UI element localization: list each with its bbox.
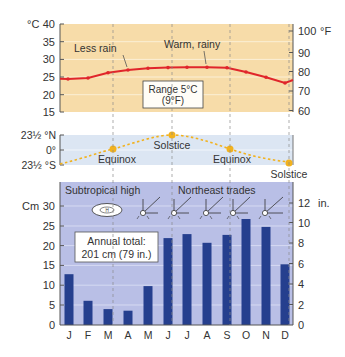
precipitation-panel: Cm 30 25 20 15 10 5 0 12 in. 10 8 6 4 2 … <box>22 182 330 341</box>
bar-feb <box>84 301 93 325</box>
tick-label: 0 <box>49 319 55 331</box>
bar-oct <box>242 219 251 325</box>
tick-label: 10 <box>298 217 310 229</box>
annual-total-line-2: 201 cm (79 in.) <box>81 248 151 260</box>
bar-nov <box>262 227 271 325</box>
month-label: D <box>281 329 289 341</box>
month-label: J <box>184 329 189 341</box>
tick-label: 15 <box>43 106 55 118</box>
northeast-trades-label: Northeast trades <box>178 184 256 196</box>
fahrenheit-tick-labels: 100 °F 90 80 70 60 <box>298 25 331 117</box>
warm-rainy-label: Warm, rainy <box>164 38 221 50</box>
subtropical-high-label: Subtropical high <box>65 184 140 196</box>
tick-label: 35 <box>43 36 55 48</box>
month-label: A <box>203 329 210 341</box>
tick-label: 25 <box>43 220 55 232</box>
celsius-unit-label: °C <box>27 18 39 30</box>
cm-unit-label: Cm <box>22 200 39 212</box>
tick-label: 23½ °N <box>21 129 56 141</box>
inch-unit-label: in. <box>318 197 330 209</box>
month-label: N <box>262 329 270 341</box>
bar-jul <box>183 234 192 325</box>
range-box: Range 5°C (9°F) <box>143 81 203 108</box>
cm-tick-labels: 30 25 20 15 10 5 0 <box>43 200 55 331</box>
annual-total-line-1: Annual total: <box>87 235 145 247</box>
tick-label: 20 <box>43 89 55 101</box>
equinox-label: Equinox <box>98 153 137 165</box>
tick-label: 12 <box>298 197 310 209</box>
bar-may <box>144 286 153 325</box>
tick-label: 30 <box>43 200 55 212</box>
tick-label: 70 <box>298 85 310 97</box>
tick-label: 5 <box>49 299 55 311</box>
inch-tick-labels: 12 in. 10 8 6 4 2 0 <box>298 197 330 331</box>
tick-label: 100 <box>298 25 316 37</box>
tick-label: 20 <box>43 240 55 252</box>
latitude-tick-labels: 23½ °N 0° 23½ °S <box>21 129 56 171</box>
tick-label: 8 <box>298 237 304 249</box>
tick-label: 0° <box>46 144 56 156</box>
bar-apr <box>124 311 133 325</box>
bar-aug <box>203 243 212 325</box>
pressure-letter: H <box>105 208 108 213</box>
month-label: M <box>144 329 153 341</box>
tick-label: 30 <box>43 53 55 65</box>
tick-label: 40 <box>43 18 55 30</box>
annual-total-box: Annual total: 201 cm (79 in.) <box>75 232 158 262</box>
tick-label: 2 <box>298 299 304 311</box>
tick-label: 4 <box>298 278 304 290</box>
tick-label: 80 <box>298 66 310 78</box>
bar-jan <box>65 274 74 325</box>
less-rain-label: Less rain <box>74 42 117 54</box>
bar-dec <box>281 264 290 325</box>
month-label: S <box>223 329 230 341</box>
bar-mar <box>104 309 113 325</box>
range-line-2: (9°F) <box>162 95 184 106</box>
tick-label: 60 <box>298 105 310 117</box>
tick-label: 6 <box>298 258 304 270</box>
month-label: J <box>66 329 71 341</box>
climograph: °C 40 35 30 25 20 15 100 °F 90 80 70 60 … <box>0 0 345 357</box>
equinox-label: Equinox <box>213 153 252 165</box>
month-label: O <box>242 329 250 341</box>
tick-label: 90 <box>298 47 310 59</box>
tick-label: 10 <box>43 279 55 291</box>
sun-position-panel: 23½ °N 0° 23½ °S Equinox Solstice Equino… <box>21 129 308 180</box>
tick-label: 15 <box>43 259 55 271</box>
month-label: A <box>124 329 131 341</box>
temperature-panel: °C 40 35 30 25 20 15 100 °F 90 80 70 60 … <box>27 18 331 118</box>
month-label: J <box>165 329 170 341</box>
month-label: F <box>85 329 91 341</box>
high-pressure-icon: H <box>92 204 122 217</box>
tick-label: 25 <box>43 71 55 83</box>
celsius-tick-labels: 40 35 30 25 20 15 <box>43 18 55 118</box>
month-labels: J F M A M J J A S O N D <box>66 329 289 341</box>
tick-label: 0 <box>298 319 304 331</box>
tick-label: 23½ °S <box>21 159 56 171</box>
range-line-1: Range 5°C <box>148 84 197 95</box>
bar-jun <box>164 238 173 325</box>
fahrenheit-unit-label: °F <box>320 25 331 37</box>
month-label: M <box>104 329 113 341</box>
